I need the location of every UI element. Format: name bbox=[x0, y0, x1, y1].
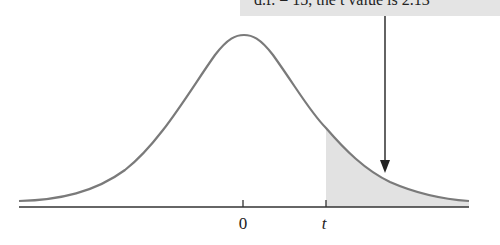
tick-label-zero: 0 bbox=[239, 214, 248, 233]
shaded-tail-region bbox=[326, 128, 469, 207]
bell-curve bbox=[19, 35, 469, 201]
arrow-head-icon bbox=[380, 160, 390, 173]
tick-label-t: t bbox=[322, 214, 328, 233]
